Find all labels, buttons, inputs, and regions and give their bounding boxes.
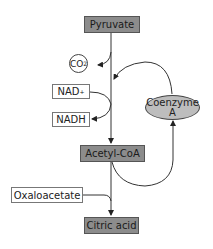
co2-node: CO2 <box>69 54 88 73</box>
coenzyme-a-label-line1: Coenzyme <box>146 98 199 108</box>
nad-plus-label: NAD <box>57 86 79 97</box>
nad-arrow <box>90 92 111 119</box>
nadh-node: NADH <box>52 112 90 127</box>
coenzyme-a-node: Coenzyme A <box>145 95 200 120</box>
co2-label: CO <box>70 59 83 69</box>
acetyl-coa-label: Acetyl-CoA <box>85 148 139 159</box>
oxaloacetate-label: Oxaloacetate <box>14 190 81 201</box>
co2-arrow <box>98 52 111 65</box>
co2-subscript: 2 <box>83 60 87 67</box>
oxaloacetate-line <box>83 195 111 201</box>
oxaloacetate-node: Oxaloacetate <box>11 187 83 203</box>
nad-plus-superscript: + <box>80 88 85 95</box>
pathway-arrows <box>0 0 213 249</box>
pyruvate-node: Pyruvate <box>84 16 140 33</box>
coenzyme-a-label-line2: A <box>169 108 176 118</box>
coenzyme-in-arrow <box>114 62 172 94</box>
nad-plus-node: NAD+ <box>52 84 90 99</box>
citric-acid-label: Citric acid <box>87 220 137 231</box>
citric-acid-node: Citric acid <box>84 217 139 234</box>
acetyl-coa-node: Acetyl-CoA <box>80 145 145 162</box>
nadh-label: NADH <box>56 114 86 125</box>
pyruvate-label: Pyruvate <box>90 19 135 30</box>
